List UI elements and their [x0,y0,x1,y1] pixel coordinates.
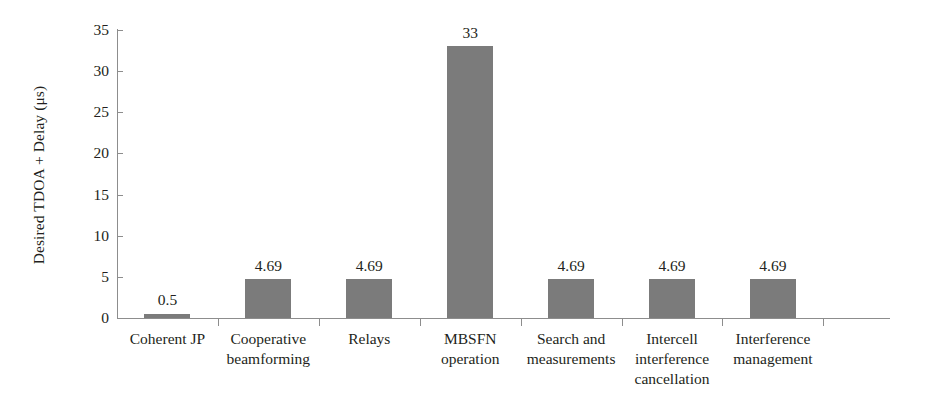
bar [245,279,291,318]
x-axis-category-labels: Coherent JPCooperativebeamformingRelaysM… [117,329,890,419]
category-label-line: Interference [722,329,823,349]
bar-group: 4.69 [521,30,622,318]
x-axis-tick [622,319,623,326]
x-axis-category-label: Search andmeasurements [521,329,622,369]
category-label-line: MBSFN [420,329,521,349]
category-label-line: management [722,349,823,369]
plot-area: 0.54.694.69334.694.694.69 [117,30,890,318]
x-axis-tick [420,319,421,326]
bar [649,279,695,318]
x-axis-line [117,318,890,319]
bar-group: 4.69 [319,30,420,318]
x-axis-tick [521,319,522,326]
bar-value-label: 4.69 [255,258,282,274]
x-axis-category-label: Intercellinterferencecancellation [622,329,723,388]
x-axis-tick [319,319,320,326]
x-axis-tick [722,319,723,326]
x-axis-tick [823,319,824,326]
y-axis-title: Desired TDOA + Delay (μs) [26,30,52,320]
x-axis-tick [218,319,219,326]
bar-group: 4.69 [218,30,319,318]
bar-group: 33 [420,30,521,318]
category-label-line: beamforming [218,349,319,369]
bar-value-label: 4.69 [658,258,685,274]
bar-value-label: 4.69 [558,258,585,274]
bar-value-label: 4.69 [759,258,786,274]
bar [447,46,493,318]
y-axis-tick-label: 25 [69,105,109,121]
bar-group: 4.69 [722,30,823,318]
y-axis-tick [118,318,123,319]
y-axis-tick-label: 0 [69,310,109,326]
y-axis-tick-label: 30 [69,63,109,79]
category-label-line: Coherent JP [117,329,218,349]
bar [346,279,392,318]
y-axis-tick-label: 5 [69,269,109,285]
bar-value-label: 0.5 [158,292,177,308]
category-label-line: cancellation [622,369,723,389]
category-label-line: measurements [521,349,622,369]
y-axis-tick-labels: 05101520253035 [65,0,109,419]
bar-chart: Desired TDOA + Delay (μs) 05101520253035… [0,0,929,419]
x-axis-category-label: Interferencemanagement [722,329,823,369]
category-label-line: Relays [319,329,420,349]
x-axis-category-label: MBSFNoperation [420,329,521,369]
category-label-line: Cooperative [218,329,319,349]
y-axis-tick-label: 20 [69,146,109,162]
category-label-line: Intercell [622,329,723,349]
bar [750,279,796,318]
bar [144,314,190,318]
bar-group: 0.5 [117,30,218,318]
category-label-line: operation [420,349,521,369]
bar-group: 4.69 [622,30,723,318]
x-axis-category-label: Cooperativebeamforming [218,329,319,369]
bar-value-label: 4.69 [356,258,383,274]
y-axis-tick-label: 15 [69,187,109,203]
bar [548,279,594,318]
category-label-line: Search and [521,329,622,349]
x-axis-category-label: Relays [319,329,420,349]
category-label-line: interference [622,349,723,369]
y-axis-tick-label: 35 [69,22,109,38]
bar-value-label: 33 [462,25,478,41]
x-axis-category-label: Coherent JP [117,329,218,349]
y-axis-tick-label: 10 [69,228,109,244]
